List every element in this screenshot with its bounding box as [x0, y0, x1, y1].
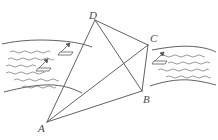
wave-line	[10, 51, 50, 53]
wave-line	[14, 79, 58, 81]
segment-BA	[47, 91, 142, 122]
wave-line	[160, 55, 204, 57]
wave-line	[168, 62, 210, 64]
boat-left-upper-icon	[58, 43, 73, 55]
wave-line	[6, 65, 36, 67]
vertex-label-A: A	[38, 123, 45, 134]
river-right-bank-bottom-line	[150, 80, 216, 86]
water-waves-right	[158, 55, 210, 78]
diagonal-AC	[47, 45, 148, 122]
river-left-bank-bottom-line	[4, 85, 82, 93]
wave-line	[6, 72, 44, 74]
segment-AD	[47, 20, 95, 122]
geometry-figure: D C B A	[0, 0, 218, 140]
vertex-label-B: B	[143, 94, 150, 105]
quadrilateral-edges	[47, 20, 148, 122]
wave-line	[158, 69, 208, 71]
river-left-bank-top-line	[2, 40, 92, 47]
vertex-label-D: D	[89, 10, 97, 21]
river-group	[2, 40, 216, 93]
segment-CB	[142, 45, 148, 91]
vertex-label-C: C	[150, 33, 157, 44]
quadrilateral-diagonals	[47, 20, 148, 122]
boat-right-icon	[152, 52, 167, 64]
figure-canvas	[0, 0, 218, 140]
wave-line	[166, 76, 210, 78]
river-right-bank-top-line	[152, 46, 216, 52]
boat-left-lower-icon	[36, 59, 51, 71]
